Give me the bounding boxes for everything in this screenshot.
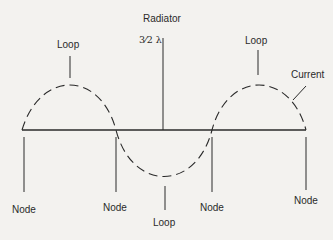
node-label-3: Node xyxy=(200,202,224,213)
loop-label-2: Loop xyxy=(153,217,176,228)
wavelength-label: 3⁄2 λ xyxy=(139,34,162,45)
node-label-1: Node xyxy=(12,204,36,215)
current-pointer xyxy=(293,86,306,100)
loop-label-3: Loop xyxy=(245,35,268,46)
loop-label-1: Loop xyxy=(57,39,80,50)
standing-wave-diagram: Radiator 3⁄2 λ Loop Loop Loop Current No… xyxy=(0,0,333,240)
radiator-label: Radiator xyxy=(143,13,181,24)
node-label-2: Node xyxy=(103,202,127,213)
node-label-4: Node xyxy=(294,195,318,206)
current-label: Current xyxy=(291,69,325,80)
